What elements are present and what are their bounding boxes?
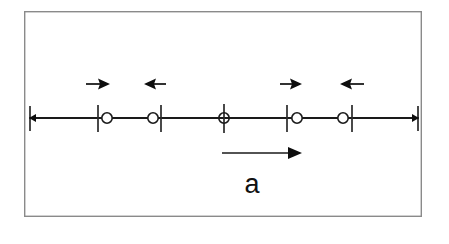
figure-border — [25, 12, 422, 217]
atom-4 — [292, 113, 302, 123]
atom-5 — [338, 113, 348, 123]
atom-1 — [102, 113, 112, 123]
figure-root: a — [0, 0, 449, 244]
atom-2 — [148, 113, 158, 123]
atom-chain-diagram: a — [0, 0, 449, 244]
lattice-constant-label: a — [244, 169, 260, 199]
